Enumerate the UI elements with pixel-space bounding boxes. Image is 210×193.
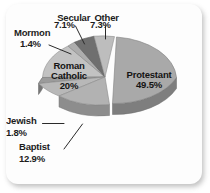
label-protestant: Protestant 49.5% [114,70,184,90]
leader-line-baptist [64,124,83,149]
label-roman-catholic: Roman Catholic 20% [38,61,100,91]
label-protestant-value: 49.5% [114,80,184,90]
label-baptist-name: Baptist [19,142,50,152]
label-jewish-value: 1.8% [6,128,27,138]
label-roman-catholic-value: 20% [38,81,100,91]
label-jewish-name: Jewish [6,116,36,126]
pie-chart-panel: Secular Other 7.1% 7.3% Mormon 1.4% Jewi… [6,4,202,184]
label-baptist-value: 12.9% [19,154,45,164]
label-secular-value: 7.1% [54,20,75,30]
label-other-value: 7.3% [90,20,111,30]
label-mormon-value: 1.4% [20,39,41,49]
label-mormon-name: Mormon [14,28,50,38]
